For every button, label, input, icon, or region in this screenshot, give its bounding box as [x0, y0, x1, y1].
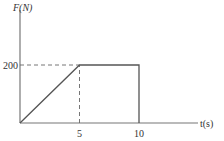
x-tick-label: 5 [77, 128, 82, 139]
y-tick-label: 200 [3, 60, 18, 71]
x-axis-label: t(s) [200, 118, 213, 130]
x-tick-labels: 510 [77, 128, 144, 139]
chart: F(N) t(s) 510 200 [0, 0, 224, 141]
y-tick-labels: 200 [3, 60, 18, 71]
x-tick-label: 10 [134, 128, 144, 139]
y-axis-label: F(N) [12, 2, 33, 14]
